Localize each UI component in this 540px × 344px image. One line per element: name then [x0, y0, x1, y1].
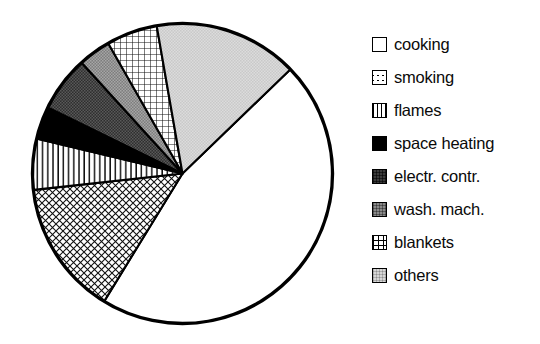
mid-gray-swatch-icon	[372, 202, 387, 217]
light-gray-swatch-icon	[372, 268, 387, 283]
legend-item-space-heating[interactable]: space heating	[372, 127, 540, 160]
solid-black-swatch-icon	[372, 136, 387, 151]
legend-item-blankets[interactable]: blankets	[372, 226, 540, 259]
legend-label: others	[394, 267, 439, 284]
legend-item-others[interactable]: others	[372, 259, 540, 292]
legend-item-cooking[interactable]: cooking	[372, 28, 540, 61]
dark-gray-swatch-icon	[372, 169, 387, 184]
legend-item-electr-contr[interactable]: electr. contr.	[372, 160, 540, 193]
legend-label: electr. contr.	[394, 168, 480, 185]
pie-slices-group	[33, 24, 332, 323]
legend-label: smoking	[394, 69, 454, 86]
legend-label: flames	[394, 102, 441, 119]
chart-legend: cooking smoking flames space heating ele…	[372, 28, 540, 292]
legend-label: space heating	[394, 135, 494, 152]
legend-label: wash. mach.	[394, 201, 484, 218]
solid-white-swatch-icon	[372, 37, 387, 52]
legend-label: blankets	[394, 234, 454, 251]
pie-chart-svg	[0, 0, 360, 344]
white-grid-swatch-icon	[372, 235, 387, 250]
cross-hatch-swatch-icon	[372, 70, 387, 85]
pie-chart-area	[0, 0, 360, 344]
legend-item-wash-mach[interactable]: wash. mach.	[372, 193, 540, 226]
legend-item-smoking[interactable]: smoking	[372, 61, 540, 94]
legend-label: cooking	[394, 36, 449, 53]
legend-item-flames[interactable]: flames	[372, 94, 540, 127]
vertical-lines-swatch-icon	[372, 103, 387, 118]
